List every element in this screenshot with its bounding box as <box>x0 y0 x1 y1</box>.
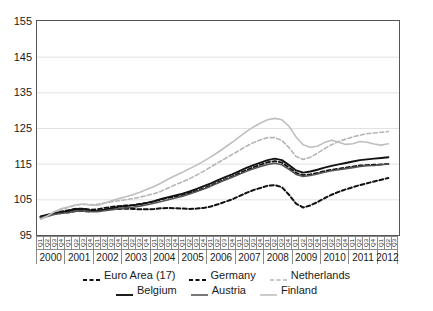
legend-row-dashed: Euro Area (17)GermanyNetherlands <box>0 268 433 283</box>
legend-label: Germany <box>210 270 255 281</box>
x-axis-quarter-band: Q1Q2Q3Q4Q1Q2Q3Q4Q1Q2Q3Q4Q1Q2Q3Q4Q1Q2Q3Q4… <box>36 236 398 250</box>
x-quarter-cell: Q3 <box>50 236 57 250</box>
x-quarter-cell: Q2 <box>355 236 362 250</box>
legend-swatch-icon <box>83 271 100 281</box>
x-quarter-cell: Q1 <box>235 236 242 250</box>
legend: Euro Area (17)GermanyNetherlands Belgium… <box>0 268 433 298</box>
x-quarter-cell: Q2 <box>128 236 135 250</box>
legend-label: Austria <box>212 285 246 296</box>
legend-entry[interactable]: Belgium <box>116 285 177 296</box>
legend-entry[interactable]: Netherlands <box>270 270 350 281</box>
x-quarter-cell: Q3 <box>306 236 313 250</box>
x-quarter-cell: Q4 <box>313 236 320 250</box>
x-quarter-cell: Q3 <box>164 236 171 250</box>
legend-label: Euro Area (17) <box>104 270 176 281</box>
x-quarter-cell: Q3 <box>220 236 227 250</box>
x-quarter-cell: Q4 <box>341 236 348 250</box>
x-quarter-label: Q3 <box>391 239 397 247</box>
x-quarter-cell: Q1 <box>206 236 213 250</box>
x-quarter-cell: Q3 <box>334 236 341 250</box>
legend-entry[interactable]: Germany <box>189 270 255 281</box>
x-quarter-cell: Q3 <box>391 236 398 250</box>
x-quarter-cell: Q4 <box>142 236 149 250</box>
x-quarter-cell: Q2 <box>71 236 78 250</box>
x-quarter-cell: Q2 <box>384 236 391 250</box>
x-quarter-cell: Q4 <box>86 236 93 250</box>
legend-swatch-icon <box>191 286 208 296</box>
x-year-label: 2000 <box>36 250 64 264</box>
x-year-label: 2006 <box>206 250 234 264</box>
x-quarter-cell: Q3 <box>107 236 114 250</box>
x-year-label: 2012 <box>377 250 398 264</box>
x-quarter-cell: Q3 <box>192 236 199 250</box>
x-quarter-cell: Q1 <box>64 236 71 250</box>
x-year-label: 2005 <box>178 250 206 264</box>
plot-area <box>0 0 433 311</box>
x-quarter-cell: Q1 <box>36 236 43 250</box>
x-year-label: 2008 <box>263 250 291 264</box>
x-quarter-cell: Q4 <box>228 236 235 250</box>
x-quarter-cell: Q1 <box>320 236 327 250</box>
legend-label: Netherlands <box>291 270 350 281</box>
legend-entry[interactable]: Austria <box>191 285 246 296</box>
x-quarter-cell: Q3 <box>249 236 256 250</box>
x-quarter-cell: Q2 <box>242 236 249 250</box>
gridlines <box>37 57 399 200</box>
x-quarter-cell: Q1 <box>150 236 157 250</box>
legend-swatch-icon <box>270 271 287 281</box>
x-quarter-cell: Q4 <box>57 236 64 250</box>
x-quarter-cell: Q3 <box>135 236 142 250</box>
x-quarter-cell: Q1 <box>348 236 355 250</box>
x-quarter-cell: Q3 <box>362 236 369 250</box>
legend-swatch-icon <box>189 271 206 281</box>
x-quarter-cell: Q4 <box>369 236 376 250</box>
x-quarter-cell: Q1 <box>93 236 100 250</box>
x-quarter-cell: Q2 <box>100 236 107 250</box>
x-quarter-cell: Q2 <box>185 236 192 250</box>
x-quarter-cell: Q1 <box>178 236 185 250</box>
x-quarter-cell: Q1 <box>291 236 298 250</box>
x-year-label: 2003 <box>121 250 149 264</box>
legend-entry[interactable]: Finland <box>260 285 317 296</box>
x-quarter-cell: Q1 <box>121 236 128 250</box>
x-quarter-cell: Q2 <box>270 236 277 250</box>
series-line-belgium <box>41 157 389 216</box>
x-year-label: 2007 <box>235 250 263 264</box>
legend-row-solid: BelgiumAustriaFinland <box>0 283 433 298</box>
x-quarter-cell: Q1 <box>377 236 384 250</box>
x-year-label: 2011 <box>348 250 376 264</box>
legend-entry[interactable]: Euro Area (17) <box>83 270 176 281</box>
x-quarter-cell: Q3 <box>277 236 284 250</box>
x-quarter-cell: Q4 <box>199 236 206 250</box>
x-quarter-cell: Q2 <box>157 236 164 250</box>
x-quarter-cell: Q2 <box>213 236 220 250</box>
x-quarter-cell: Q2 <box>43 236 50 250</box>
x-quarter-cell: Q2 <box>327 236 334 250</box>
x-year-label: 2009 <box>292 250 320 264</box>
x-quarter-cell: Q4 <box>256 236 263 250</box>
x-axis-year-band: 2000200120022003200420052006200720082009… <box>36 250 398 264</box>
x-year-label: 2004 <box>150 250 178 264</box>
legend-label: Finland <box>281 285 317 296</box>
x-year-label: 2002 <box>93 250 121 264</box>
legend-label: Belgium <box>137 285 177 296</box>
x-quarter-cell: Q1 <box>263 236 270 250</box>
x-year-label: 2010 <box>320 250 348 264</box>
x-quarter-cell: Q4 <box>171 236 178 250</box>
x-quarter-cell: Q2 <box>298 236 305 250</box>
series-lines <box>41 118 389 219</box>
x-quarter-cell: Q3 <box>79 236 86 250</box>
x-year-label: 2001 <box>64 250 92 264</box>
legend-swatch-icon <box>116 286 133 296</box>
legend-swatch-icon <box>260 286 277 296</box>
index-line-chart: 95105115125135145155 Q1Q2Q3Q4Q1Q2Q3Q4Q1Q… <box>0 0 433 311</box>
x-quarter-cell: Q4 <box>114 236 121 250</box>
x-quarter-cell: Q4 <box>284 236 291 250</box>
